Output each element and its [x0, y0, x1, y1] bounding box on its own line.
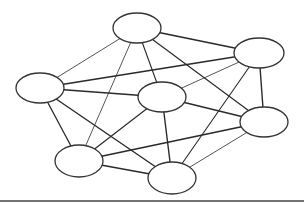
network-graph-diagram — [0, 0, 304, 203]
graph-edge-n2-n3 — [40, 53, 259, 88]
graph-node-n1 — [113, 13, 161, 43]
graph-node-n3 — [16, 73, 64, 103]
graph-node-n6 — [55, 145, 103, 177]
graph-edge-n5-n6 — [79, 122, 264, 161]
graph-node-n5 — [240, 107, 288, 137]
graph-nodes — [16, 13, 288, 194]
graph-node-n4 — [138, 82, 186, 112]
graph-node-n7 — [148, 162, 196, 194]
graph-node-n2 — [234, 38, 284, 68]
